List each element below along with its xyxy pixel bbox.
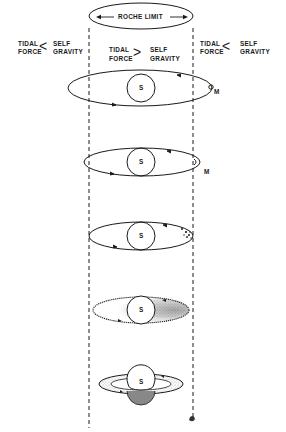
planet-label: S xyxy=(139,84,144,92)
orbit-arrow-icon xyxy=(167,150,171,153)
roche-limit-figure: ROCHE LIMIT TIDAL FORCE < SELF GRAVITY T… xyxy=(0,0,286,432)
greater-than-symbol: > xyxy=(133,45,141,59)
ink-blot xyxy=(189,416,195,421)
planet-label: S xyxy=(139,232,144,240)
moon-m xyxy=(194,159,196,165)
planet-label: S xyxy=(139,306,144,314)
orbit-arrow-icon xyxy=(112,103,116,106)
planet-label: S xyxy=(139,158,144,166)
orbit-arrow-icon xyxy=(113,245,117,248)
planet-label: S xyxy=(139,378,144,386)
moon-label: M xyxy=(204,168,210,176)
tidal-label: TIDAL xyxy=(109,46,129,54)
moon-label: M xyxy=(214,88,220,96)
less-than-symbol: < xyxy=(222,39,230,53)
self-label: SELF xyxy=(53,40,71,48)
orbit-arrow-icon xyxy=(177,74,181,77)
gravity-label: GRAVITY xyxy=(53,48,83,56)
diagram-canvas xyxy=(0,0,286,432)
self-label: SELF xyxy=(240,40,258,48)
orbit-arrow-icon xyxy=(163,224,167,227)
force-label: FORCE xyxy=(109,55,133,63)
orbit-arrow-icon xyxy=(110,172,114,175)
force-label: FORCE xyxy=(200,48,224,56)
self-label: SELF xyxy=(150,46,168,54)
tidal-label: TIDAL xyxy=(18,40,38,48)
gravity-label: GRAVITY xyxy=(240,48,270,56)
less-than-symbol: < xyxy=(39,39,47,53)
roche-limit-label: ROCHE LIMIT xyxy=(118,13,163,21)
tidal-label: TIDAL xyxy=(200,40,220,48)
gravity-label: GRAVITY xyxy=(150,55,180,63)
